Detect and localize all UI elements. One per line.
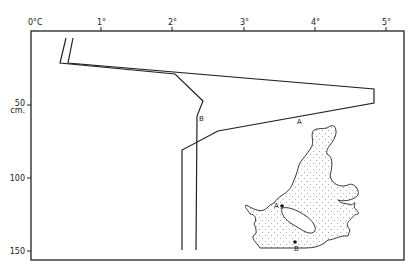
series-a-label: A (297, 118, 302, 126)
x-tick-label-3: 3° (240, 18, 249, 27)
temperature-depth-chart: 0°C 1° 2° 3° 4° 5° 50 cm. 100 150 A B A … (0, 0, 417, 270)
inset-lake-map: A B (245, 126, 358, 253)
x-tick-label-0: 0°C (28, 18, 43, 27)
x-tick-label-2: 2° (168, 18, 177, 27)
map-point-a (280, 204, 284, 208)
y-tick-label-100: 100 (10, 174, 25, 183)
x-tick-label-4: 4° (311, 18, 320, 27)
map-point-b (293, 240, 297, 244)
y-axis: 50 cm. 100 150 (10, 99, 31, 256)
x-tick-label-5: 5° (382, 18, 391, 27)
map-label-b: B (294, 245, 299, 253)
y-axis-unit: cm. (10, 106, 25, 115)
x-tick-label-1: 1° (97, 18, 106, 27)
series-b-label: B (199, 115, 204, 123)
y-tick-label-150: 150 (10, 247, 25, 256)
x-axis: 0°C 1° 2° 3° 4° 5° (28, 18, 391, 31)
map-label-a: A (274, 202, 279, 210)
